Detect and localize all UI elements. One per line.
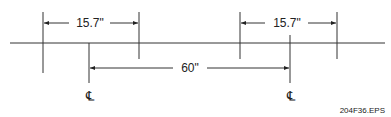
left-centerline-symbol: ℄ bbox=[85, 88, 95, 103]
left-spacing-label: 15.7" bbox=[76, 16, 104, 30]
center-spacing-label: 60" bbox=[181, 61, 199, 75]
figure-id: 204F36.EPS bbox=[340, 106, 385, 115]
dimension-diagram: 15.7" ℄ 15.7" ℄ 60" 204F36.EPS bbox=[0, 0, 391, 117]
right-spacing-label: 15.7" bbox=[273, 16, 301, 30]
right-centerline-symbol: ℄ bbox=[286, 88, 296, 103]
